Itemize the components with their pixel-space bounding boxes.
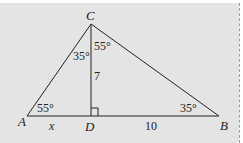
- right-angle-marker: [91, 108, 98, 116]
- side-CB: [91, 24, 219, 116]
- label-C: C: [86, 8, 95, 23]
- segment-AD-length: x: [48, 119, 55, 133]
- segment-DB-length: 10: [145, 119, 157, 133]
- angle-A: 55°: [37, 101, 54, 115]
- angle-DCB: 55°: [94, 39, 111, 53]
- label-D: D: [84, 119, 95, 134]
- label-A: A: [17, 114, 26, 129]
- triangle-diagram: C A D B 35° 55° 55° 35° 7 x 10: [0, 0, 243, 143]
- angle-B: 35°: [180, 101, 197, 115]
- label-B: B: [220, 118, 228, 133]
- angle-ACD: 35°: [73, 49, 90, 63]
- segment-CD-length: 7: [94, 69, 100, 83]
